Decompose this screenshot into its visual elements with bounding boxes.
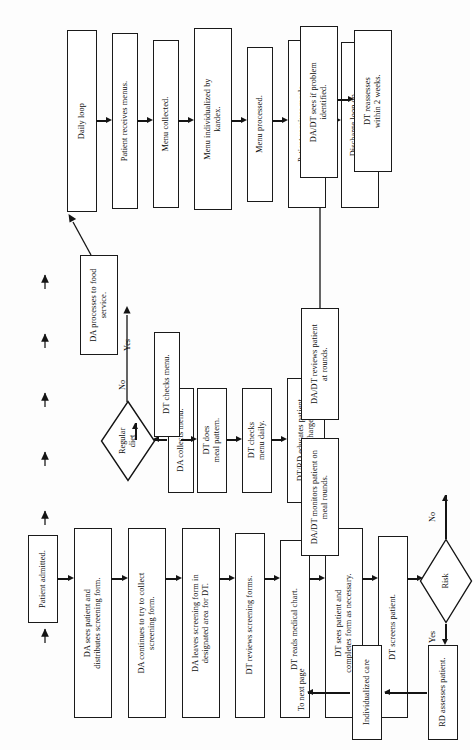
node-label: DT reads medical chart. <box>290 588 300 670</box>
risk-no-label: No <box>428 505 438 529</box>
node-label: DT does meal pattern. <box>202 418 222 463</box>
decision-regular-diet-label-wrap: Regular diet <box>100 400 156 482</box>
node-da-leaves-form: DA leaves screening form in designated a… <box>182 528 220 718</box>
node-label: Daily loop <box>77 103 87 139</box>
node-label: DA sees patient and distributes screenin… <box>83 577 103 668</box>
node-rd-assesses-patient: RD assesses patient. <box>428 645 458 740</box>
node-da-processes-food-service: DA processes to food service. <box>80 255 118 355</box>
node-dt-checks-menu-daily: DT checks menu daily. <box>242 388 272 493</box>
node-label: DA continues to try to collect screening… <box>137 573 157 674</box>
node-menu-individualized: Menu individualized by kardex. <box>194 28 232 210</box>
node-dadt-monitors-meal-rounds: DA/DT monitors patient on meal rounds. <box>301 438 339 556</box>
node-label: DA/DT monitors patient on meal rounds. <box>310 450 330 544</box>
node-dt-meal-pattern: DT does meal pattern. <box>197 388 227 493</box>
decision-risk: Risk <box>419 538 473 624</box>
node-dt-reassesses: DT reassesses within 2 weeks. <box>354 30 392 172</box>
node-label: DA/DT sees if problem identified. <box>309 62 329 142</box>
node-dt-checks-menu: DT checks menu. <box>154 332 180 437</box>
node-label: DT screens patient. <box>388 594 398 660</box>
node-label: Individualized care <box>362 660 372 726</box>
node-dadt-problem-identified: DA/DT sees if problem identified. <box>300 26 338 178</box>
node-daily-loop: Daily loop <box>67 30 97 212</box>
node-dadt-reviews-rounds: DA/DT reviews patient at rounds. <box>301 308 339 420</box>
node-label: Patient receives menus. <box>120 81 130 161</box>
to-next-page-label: To next page <box>297 660 307 720</box>
node-individualized-care: Individualized care <box>352 645 382 740</box>
regular-diet-no-label: No <box>118 374 128 396</box>
node-label: Patient admitted. <box>38 550 48 608</box>
decision-regular-diet: Regular diet <box>100 400 156 482</box>
node-label: DT reviews screening forms. <box>245 576 255 675</box>
node-dt-screens-patient: DT screens patient. <box>378 536 408 718</box>
node-dt-reviews-forms: DT reviews screening forms. <box>235 533 265 718</box>
node-da-collect-form: DA continues to try to collect screening… <box>128 528 166 718</box>
node-label: Menu individualized by kardex. <box>203 78 223 159</box>
node-label: DT checks menu daily. <box>247 421 267 461</box>
node-label: RD assesses patient. <box>438 658 448 728</box>
node-label: Menu processed. <box>255 96 265 154</box>
node-menu-processed: Menu processed. <box>247 47 273 202</box>
node-label: DT checks menu. <box>162 355 172 415</box>
node-patient-receives-menus: Patient receives menus. <box>112 33 138 209</box>
node-menu-collected: Menu collected. <box>153 40 179 208</box>
node-label: Menu collected. <box>161 97 171 152</box>
decision-risk-label: Risk <box>441 573 451 588</box>
decision-risk-label-wrap: Risk <box>419 538 473 624</box>
node-label: DA/DT reviews patient at rounds. <box>310 324 330 404</box>
node-da-distributes-form: DA sees patient and distributes screenin… <box>74 528 112 718</box>
node-label: DA leaves screening form in designated a… <box>191 574 211 672</box>
node-label: DT reassesses within 2 weeks. <box>363 74 383 128</box>
regular-diet-yes-label: Yes <box>123 333 133 357</box>
node-label: DA processes to food service. <box>89 268 109 341</box>
node-patient-admitted: Patient admitted. <box>28 535 58 623</box>
